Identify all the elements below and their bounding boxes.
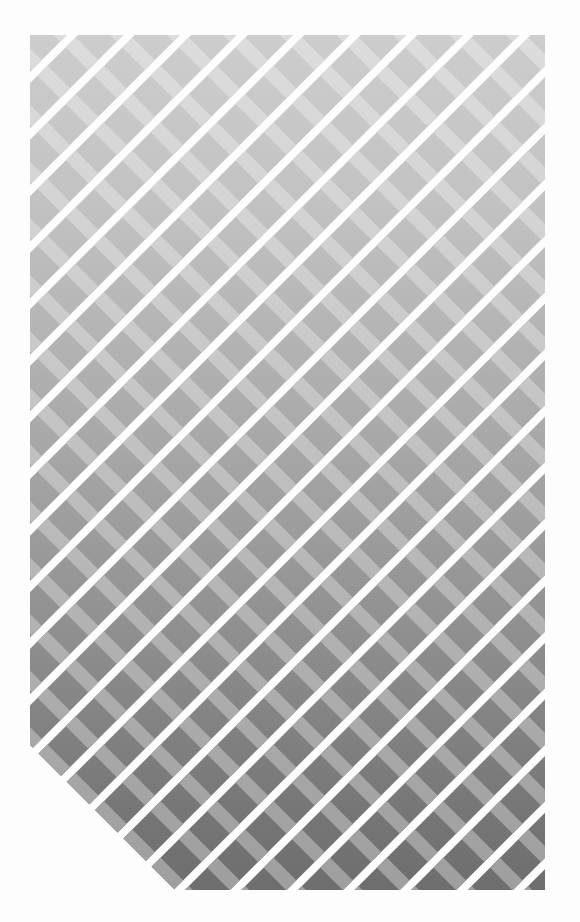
secondary-crossing-stripes <box>0 0 580 922</box>
crosshatch-pattern-graphic <box>0 0 580 922</box>
pattern-canvas <box>0 0 580 922</box>
